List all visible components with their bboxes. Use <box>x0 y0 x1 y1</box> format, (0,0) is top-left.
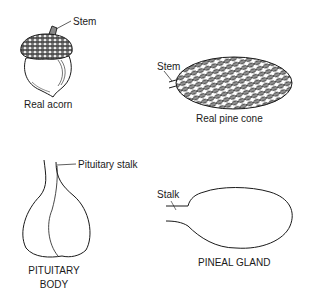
pituitary-caption-line1: PITUITARY <box>26 265 82 277</box>
acorn-drawing <box>21 21 72 97</box>
pituitary-stalk-callout-line <box>57 164 76 165</box>
acorn-stem-label: Stem <box>73 16 96 27</box>
acorn-nut <box>25 56 72 97</box>
pine-cone-body <box>176 57 292 109</box>
pituitary-caption-line2: BODY <box>26 279 82 291</box>
pine-cone-stem-callout-line <box>164 71 172 81</box>
pine-cone-caption: Real pine cone <box>196 113 263 125</box>
acorn-stem-callout-line <box>56 21 71 29</box>
pituitary-outline-right <box>56 162 90 257</box>
acorn-cap <box>21 34 72 59</box>
pituitary-stalk-label: Pituitary stalk <box>78 159 137 170</box>
pituitary-inner-line <box>49 166 58 256</box>
acorn-caption: Real acorn <box>24 99 72 111</box>
pituitary-caption: PITUITARY BODY <box>26 265 82 291</box>
pine-cone-stem-label: Stem <box>157 61 180 72</box>
pineal-stalk-label: Stalk <box>157 189 179 200</box>
pine-cone-drawing <box>164 57 292 109</box>
pine-cone-stem <box>169 80 176 88</box>
pineal-drawing <box>166 188 292 249</box>
pineal-caption: PINEAL GLAND <box>198 257 270 269</box>
pituitary-outline-left <box>23 160 62 257</box>
pineal-outline <box>166 188 292 249</box>
pituitary-drawing <box>23 160 90 257</box>
